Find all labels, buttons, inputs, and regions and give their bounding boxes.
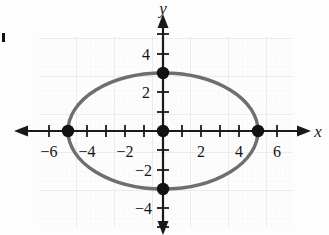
x-tick-label--2: −2 (116, 143, 133, 160)
coordinate-plane: −6 −4 −2 2 4 6 4 2 −2 −4 x y (0, 0, 329, 235)
y-tick-label--2: −2 (135, 162, 152, 179)
point-left-vertex (62, 125, 74, 137)
x-tick-label-4: 4 (235, 143, 243, 160)
y-tick-label-4: 4 (142, 46, 150, 63)
x-tick-label--4: −4 (78, 143, 95, 160)
point-bottom-covertex (157, 183, 169, 195)
x-tick-label-2: 2 (197, 143, 205, 160)
y-axis-label: y (157, 0, 167, 18)
y-tick-label-2: 2 (142, 84, 150, 101)
x-axis-label: x (313, 122, 322, 141)
edge-marker-icon (2, 33, 5, 42)
y-tick-label--4: −4 (135, 200, 152, 217)
x-tick-label--6: −6 (40, 143, 57, 160)
point-center (157, 125, 169, 137)
point-right-vertex (252, 125, 264, 137)
graph-figure: −6 −4 −2 2 4 6 4 2 −2 −4 x y (0, 0, 329, 235)
point-top-covertex (157, 67, 169, 79)
x-tick-label-6: 6 (273, 143, 281, 160)
